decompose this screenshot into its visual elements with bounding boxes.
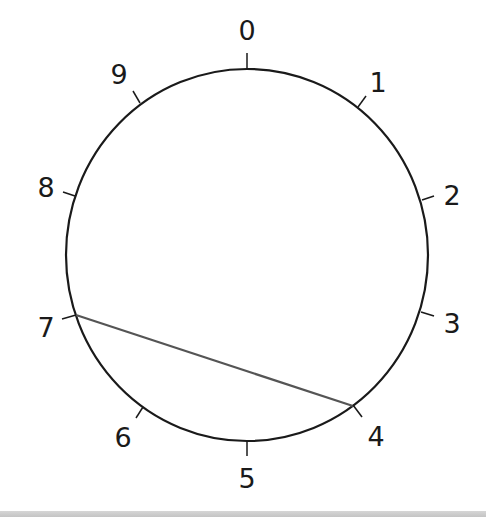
- tick-mark-3: [421, 312, 434, 316]
- point-label-3: 3: [443, 308, 460, 339]
- circle: [66, 69, 428, 441]
- point-label-8: 8: [37, 172, 54, 203]
- point-label-7: 7: [37, 312, 54, 343]
- point-label-0: 0: [238, 15, 255, 46]
- tick-mark-2: [422, 196, 434, 200]
- point-label-4: 4: [367, 421, 384, 452]
- tick-mark-8: [63, 192, 75, 196]
- tick-mark-7: [62, 315, 76, 319]
- tick-mark-6: [136, 407, 143, 418]
- point-label-5: 5: [238, 463, 255, 494]
- point-label-2: 2: [443, 180, 460, 211]
- tick-mark-4: [353, 405, 362, 417]
- tick-mark-9: [133, 91, 140, 103]
- point-label-1: 1: [369, 67, 386, 98]
- circle-diagram: 0123456789: [0, 0, 486, 517]
- diagram-canvas: 0123456789: [0, 0, 486, 517]
- point-label-9: 9: [110, 59, 127, 90]
- tick-mark-1: [358, 96, 366, 107]
- bottom-bar: [0, 511, 486, 517]
- point-label-6: 6: [114, 422, 131, 453]
- chord-7-4: [76, 315, 353, 406]
